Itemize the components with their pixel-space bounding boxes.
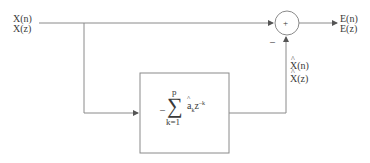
plus-sign: + <box>283 18 288 28</box>
formula-negation: – <box>160 104 165 115</box>
formula-lower-limit: k=1 <box>166 117 180 127</box>
branch-line <box>84 23 138 113</box>
minus-sign: – <box>270 36 275 47</box>
hat-icon: ^ <box>291 68 295 78</box>
output-label-z: E(z) <box>340 24 358 34</box>
predicted-label: ^ X(n) ^ X(z) <box>290 61 309 84</box>
predictor-formula: – p ∑ k=1 ^ akz–k <box>160 90 230 140</box>
output-label: E(n) E(z) <box>340 14 358 34</box>
formula-exp: –k <box>199 100 205 106</box>
sigma-icon: ∑ <box>167 95 183 117</box>
hat-icon: ^ <box>291 55 295 65</box>
hat-icon: ^ <box>187 94 190 102</box>
input-label-z: X(z) <box>13 24 32 34</box>
prediction-line <box>229 37 286 113</box>
input-label: X(n) X(z) <box>13 14 32 34</box>
formula-term: ^ akz–k <box>187 100 205 113</box>
